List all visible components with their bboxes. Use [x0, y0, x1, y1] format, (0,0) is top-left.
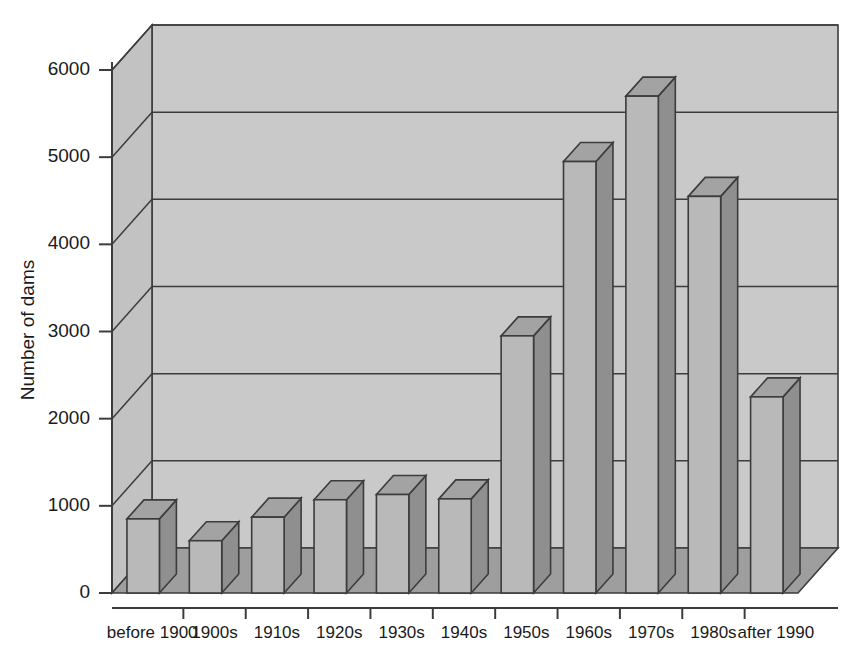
x-axis-category-label: 1900s	[191, 623, 237, 642]
y-axis-tick-label: 4000	[48, 232, 90, 253]
y-axis-tick-label: 0	[79, 581, 90, 602]
chart-container: 6000500040003000200010000 before 1900190…	[0, 0, 852, 647]
bar-1930s	[376, 476, 425, 593]
y-axis-tick-label: 3000	[48, 320, 90, 341]
x-axis-category-label: after 1990	[738, 623, 815, 642]
bar-side-face	[596, 143, 613, 593]
bar-front-face	[501, 336, 533, 593]
x-axis-category-label: 1960s	[566, 623, 612, 642]
bar-before-1900	[127, 500, 176, 593]
x-axis-category-label: 1980s	[690, 623, 736, 642]
bar-1960s	[564, 143, 613, 593]
y-axis-tick-label: 5000	[48, 145, 90, 166]
bar-front-face	[127, 519, 159, 593]
bar-side-face	[409, 476, 426, 593]
y-axis-tick-label: 2000	[48, 407, 90, 428]
x-axis-category-label: before 1900	[107, 623, 198, 642]
bar-front-face	[751, 397, 783, 593]
bar-front-face	[252, 517, 284, 593]
bar-side-face	[534, 317, 551, 593]
bar-1950s	[501, 317, 550, 593]
bar-side-face	[721, 177, 738, 593]
bar-chart-3d: 6000500040003000200010000 before 1900190…	[0, 0, 852, 647]
y-axis-tick-label: 1000	[48, 494, 90, 515]
bar-side-face	[658, 77, 675, 593]
bar-front-face	[439, 499, 471, 593]
bar-after-1990	[751, 378, 800, 593]
bar-side-face	[783, 378, 800, 593]
bar-front-face	[688, 196, 720, 593]
bar-front-face	[189, 541, 221, 593]
bar-front-face	[314, 500, 346, 593]
bar-1900s	[189, 522, 238, 593]
bar-1980s	[688, 177, 737, 593]
bar-1920s	[314, 481, 363, 593]
bar-front-face	[564, 162, 596, 593]
x-axis-category-label: 1950s	[503, 623, 549, 642]
y-axis-title: Number of dams	[17, 260, 38, 400]
x-axis-category-label: 1930s	[378, 623, 424, 642]
bar-1970s	[626, 77, 675, 593]
bar-front-face	[376, 495, 408, 593]
bar-1910s	[252, 498, 301, 593]
y-axis-tick-label: 6000	[48, 58, 90, 79]
x-axis-category-label: 1970s	[628, 623, 674, 642]
x-axis-category-label: 1920s	[316, 623, 362, 642]
x-axis-category-label: 1940s	[441, 623, 487, 642]
bar-1940s	[439, 480, 488, 593]
bar-front-face	[626, 96, 658, 593]
x-axis-category-label: 1910s	[254, 623, 300, 642]
